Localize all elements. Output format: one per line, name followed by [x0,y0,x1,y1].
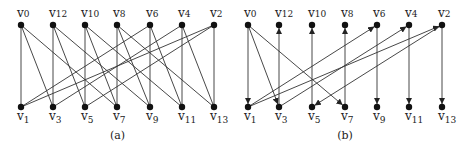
node-label-v5: v5 [80,109,94,125]
panel-caption: (a) [110,129,125,142]
node-label-v13: v13 [437,109,457,125]
node-label-v3: v3 [48,109,62,125]
node-label-v7: v7 [112,109,126,125]
node-v6 [147,22,153,28]
node-label-v3: v3 [274,109,288,125]
node-label-v8: v8 [112,6,126,20]
edge-v6-v11 [150,25,182,107]
edge-v2-v5 [85,25,214,107]
node-v2 [439,22,445,28]
node-v10 [309,22,315,28]
node-v12 [276,22,282,28]
edge-v0-v3 [21,25,53,107]
edge-v12-v9 [53,25,150,107]
edge-v2-v5 [315,25,442,105]
node-label-v4: v4 [404,6,418,20]
node-v0 [245,22,251,28]
node-label-v10: v10 [307,6,327,20]
node-v4 [406,22,412,28]
edge-v4-v13 [182,25,214,107]
node-label-v0: v0 [16,6,30,20]
node-v10 [82,22,88,28]
node-label-v10: v10 [80,6,100,20]
node-label-v7: v7 [340,109,354,125]
edge-v8-v13 [117,25,214,107]
node-v12 [50,22,56,28]
node-label-v5: v5 [307,109,321,125]
node-label-v6: v6 [372,6,386,20]
panel-b-directed-graph: v0v12v10v8v6v4v2v1v3v5v7v9v11v13(b) [243,6,457,142]
edge-v0-v7 [248,25,343,105]
node-label-v9: v9 [372,109,386,125]
edge-v1-v2 [248,26,439,107]
panel-a-undirected-graph: v0v12v10v8v6v4v2v1v3v5v7v9v11v13(a) [16,6,229,142]
node-v2 [211,22,217,28]
edge-v1-v6 [248,27,374,107]
node-label-v12: v12 [48,6,67,20]
bipartite-graphs-diagram: v0v12v10v8v6v4v2v1v3v5v7v9v11v13(a) v0v1… [0,0,470,155]
node-v6 [374,22,380,28]
edge-v8-v9 [117,25,150,107]
edge-v12-v5 [53,25,85,107]
edge-v10-v7 [85,25,117,107]
node-v8 [342,22,348,28]
node-label-v1: v1 [16,109,30,125]
node-v0 [18,22,24,28]
node-label-v1: v1 [243,109,257,125]
node-label-v6: v6 [145,6,159,20]
node-label-v9: v9 [145,109,159,125]
node-label-v2: v2 [437,6,451,20]
node-label-v4: v4 [177,6,191,20]
node-label-v11: v11 [177,109,196,125]
node-label-v8: v8 [340,6,354,20]
node-label-v13: v13 [209,109,229,125]
edge-v0-v3 [248,25,278,104]
node-v8 [114,22,120,28]
node-v4 [179,22,185,28]
edge-v2-v1 [21,25,214,107]
node-label-v11: v11 [404,109,423,125]
node-label-v0: v0 [243,6,257,20]
edge-v6-v1 [21,25,150,107]
panel-caption: (b) [337,129,353,142]
node-label-v12: v12 [274,6,293,20]
node-label-v2: v2 [209,6,223,20]
